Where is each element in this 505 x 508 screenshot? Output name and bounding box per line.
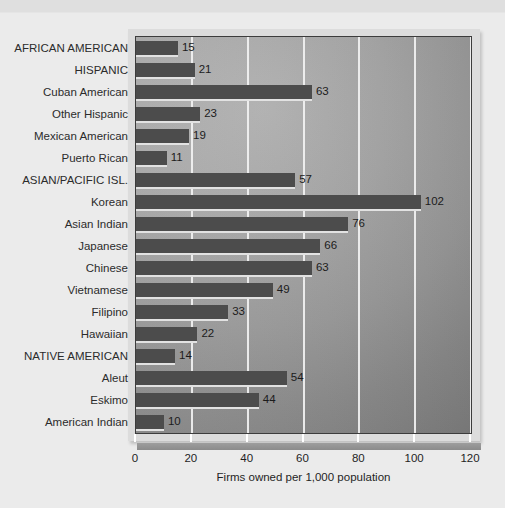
y-axis-label: Aleut: [4, 371, 128, 385]
bar: [136, 261, 312, 277]
bar-value-label: 63: [316, 83, 329, 99]
x-axis-line: [137, 443, 481, 450]
bar-value-label: 76: [352, 215, 365, 231]
bar-row: 15: [136, 41, 471, 57]
bar-row: 66: [136, 239, 471, 255]
bar-row: 11: [136, 151, 471, 167]
x-tick-label-120: 120: [460, 452, 479, 464]
bar: [136, 217, 348, 233]
x-tick-80: [357, 434, 359, 442]
x-tick-label-40: 40: [240, 452, 253, 464]
bar-value-label: 15: [182, 39, 195, 55]
x-tick-40: [246, 434, 248, 442]
bar: [136, 173, 295, 189]
x-tick-label-80: 80: [352, 452, 365, 464]
bar-value-label: 57: [299, 171, 312, 187]
x-axis-ticks: [135, 434, 472, 443]
bar: [136, 63, 195, 79]
bar-value-label: 23: [204, 105, 217, 121]
bar-row: 54: [136, 371, 471, 387]
bar-value-label: 54: [291, 369, 304, 385]
bar: [136, 151, 167, 167]
bar-row: 22: [136, 327, 471, 343]
bar: [136, 393, 259, 409]
y-axis-label: Filipino: [4, 305, 128, 319]
bar: [136, 107, 200, 123]
y-axis-label: Japanese: [4, 239, 128, 253]
bar-chart-figure: 1521632319115710276666349332214544410 AF…: [0, 0, 505, 508]
bar-row: 21: [136, 63, 471, 79]
bar-row: 33: [136, 305, 471, 321]
bar-row: 63: [136, 261, 471, 277]
bar-row: 10: [136, 415, 471, 431]
bar-row: 76: [136, 217, 471, 233]
bar-value-label: 21: [199, 61, 212, 77]
bar: [136, 195, 421, 211]
y-axis-label: American Indian: [4, 415, 128, 429]
y-axis-label: HISPANIC: [4, 63, 128, 77]
bar: [136, 327, 197, 343]
y-axis-label: Eskimo: [4, 393, 128, 407]
x-axis-title: Firms owned per 1,000 population: [135, 471, 472, 483]
bar-value-label: 22: [201, 325, 214, 341]
bar-value-label: 11: [171, 149, 183, 165]
y-axis-label: Hawaiian: [4, 327, 128, 341]
y-axis-label: ASIAN/PACIFIC ISL.: [4, 173, 128, 187]
bar: [136, 283, 273, 299]
x-tick-0: [134, 434, 136, 442]
bar-row: 63: [136, 85, 471, 101]
bar-value-label: 19: [193, 127, 206, 143]
bar-row: 102: [136, 195, 471, 211]
y-axis-label: Puerto Rican: [4, 151, 128, 165]
y-axis-label: Cuban American: [4, 85, 128, 99]
bar: [136, 129, 189, 145]
bar-row: 14: [136, 349, 471, 365]
bar-value-label: 102: [425, 193, 444, 209]
x-tick-label-20: 20: [184, 452, 197, 464]
bar: [136, 305, 228, 321]
bar-value-label: 66: [324, 237, 337, 253]
bar-value-label: 49: [277, 281, 290, 297]
bar: [136, 349, 175, 365]
y-axis-label: Asian Indian: [4, 217, 128, 231]
page-background: 1521632319115710276666349332214544410 AF…: [0, 0, 505, 508]
bar: [136, 239, 320, 255]
bar-row: 44: [136, 393, 471, 409]
bar: [136, 415, 164, 431]
bar: [136, 85, 312, 101]
x-tick-label-60: 60: [296, 452, 309, 464]
y-axis-label: AFRICAN AMERICAN: [4, 41, 128, 55]
x-tick-100: [413, 434, 415, 442]
bar-value-label: 14: [179, 347, 192, 363]
bar: [136, 41, 178, 57]
bar: [136, 371, 287, 387]
bar-value-label: 44: [263, 391, 276, 407]
y-axis-label: Other Hispanic: [4, 107, 128, 121]
y-axis-label: Chinese: [4, 261, 128, 275]
x-tick-120: [469, 434, 471, 442]
x-tick-60: [302, 434, 304, 442]
x-tick-label-0: 0: [132, 452, 138, 464]
bar-value-label: 63: [316, 259, 329, 275]
bar-row: 57: [136, 173, 471, 189]
bar-row: 23: [136, 107, 471, 123]
plot-area: 1521632319115710276666349332214544410: [135, 36, 472, 434]
bar-row: 49: [136, 283, 471, 299]
x-axis-tick-labels: 020406080100120: [135, 452, 472, 468]
y-axis-label: Mexican American: [4, 129, 128, 143]
bar-row: 19: [136, 129, 471, 145]
y-axis-labels: AFRICAN AMERICANHISPANICCuban AmericanOt…: [0, 36, 128, 434]
x-tick-label-100: 100: [405, 452, 424, 464]
bar-value-label: 33: [232, 303, 245, 319]
y-axis-label: Korean: [4, 195, 128, 209]
x-tick-20: [190, 434, 192, 442]
y-axis-label: NATIVE AMERICAN: [4, 349, 128, 363]
y-axis-label: Vietnamese: [4, 283, 128, 297]
bar-value-label: 10: [168, 413, 181, 429]
